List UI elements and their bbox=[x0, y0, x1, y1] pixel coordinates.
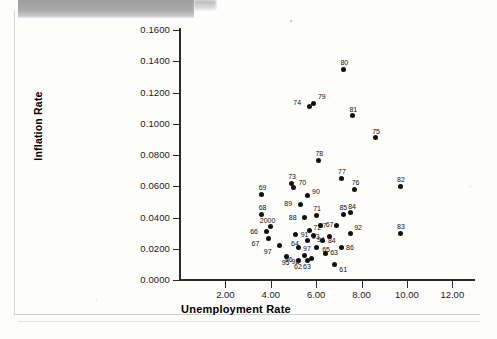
y-tick-mark bbox=[173, 124, 181, 125]
data-point bbox=[291, 185, 296, 190]
data-point bbox=[341, 67, 346, 72]
data-point-label: 79 bbox=[318, 93, 326, 100]
data-point-label: 97 bbox=[303, 245, 311, 252]
data-point bbox=[348, 210, 353, 215]
data-point bbox=[350, 113, 355, 118]
y-tick-mark bbox=[173, 93, 181, 94]
data-point-label: 82 bbox=[397, 176, 405, 183]
data-point bbox=[398, 184, 403, 189]
data-point bbox=[305, 193, 310, 198]
y-tick-label: 0.0000 bbox=[110, 274, 170, 285]
y-tick-mark bbox=[173, 280, 181, 281]
x-tick-label: 8.00 bbox=[339, 289, 385, 300]
x-tick-label: 6.00 bbox=[293, 289, 339, 300]
data-point-label: 2000 bbox=[260, 217, 276, 224]
y-tick-label: 0.1400 bbox=[110, 55, 170, 66]
x-tick-mark bbox=[316, 281, 317, 288]
y-tick-mark bbox=[173, 186, 181, 187]
data-point-label: 68 bbox=[259, 204, 267, 211]
data-point bbox=[341, 212, 346, 217]
data-point bbox=[302, 215, 307, 220]
data-point bbox=[314, 213, 319, 218]
data-point-label: 70 bbox=[298, 179, 306, 186]
y-tick-label: 0.0800 bbox=[110, 149, 170, 160]
data-point-label: 84 bbox=[348, 203, 356, 210]
data-point-label: 73 bbox=[288, 173, 296, 180]
y-tick-label: 0.0600 bbox=[110, 180, 170, 191]
x-tick-mark bbox=[362, 281, 363, 288]
x-tick-label: 4.00 bbox=[248, 289, 294, 300]
y-tick-label: 0.0400 bbox=[110, 212, 170, 223]
data-point-label: 90 bbox=[312, 188, 320, 195]
data-point-label: 85 bbox=[339, 204, 347, 211]
x-tick-label: 12.00 bbox=[429, 289, 475, 300]
y-tick-mark bbox=[173, 155, 181, 156]
data-point-label: 93 bbox=[312, 233, 320, 240]
y-tick-mark bbox=[173, 30, 181, 31]
x-axis-title: Unemployment Rate bbox=[126, 303, 346, 315]
scatter-plot: 0.00000.02000.04000.06000.08000.10000.12… bbox=[0, 0, 497, 339]
data-point-label: 78 bbox=[315, 150, 323, 157]
y-axis-line bbox=[179, 28, 181, 280]
data-point-label: 91 bbox=[301, 231, 309, 238]
data-point-label: 88 bbox=[289, 214, 297, 221]
data-point bbox=[334, 223, 339, 228]
data-point-label: 63 bbox=[330, 249, 338, 256]
scan-speck bbox=[290, 20, 292, 22]
data-point-label: 97 bbox=[264, 248, 272, 255]
data-point bbox=[314, 245, 319, 250]
data-point-label: 72 bbox=[313, 224, 321, 231]
data-point bbox=[259, 192, 264, 197]
scanned-page: 0.00000.02000.04000.06000.08000.10000.12… bbox=[0, 0, 497, 339]
data-point-label: 67 bbox=[326, 221, 334, 228]
data-point-label: 63 bbox=[303, 263, 311, 270]
data-point bbox=[298, 202, 303, 207]
data-point-label: 66 bbox=[250, 228, 258, 235]
y-tick-label: 0.0200 bbox=[110, 243, 170, 254]
data-point-label: 89 bbox=[284, 200, 292, 207]
data-point bbox=[309, 256, 314, 261]
y-tick-mark bbox=[173, 61, 181, 62]
x-tick-mark bbox=[407, 281, 408, 288]
y-tick-label: 0.1200 bbox=[110, 87, 170, 98]
x-tick-label: 2.00 bbox=[202, 289, 248, 300]
data-point bbox=[373, 135, 378, 140]
x-axis-line bbox=[179, 279, 475, 281]
data-point bbox=[323, 251, 328, 256]
y-tick-mark bbox=[173, 218, 181, 219]
x-tick-mark bbox=[271, 281, 272, 288]
data-point-label: 69 bbox=[259, 184, 267, 191]
data-point-label: 61 bbox=[339, 266, 347, 273]
x-tick-mark bbox=[225, 281, 226, 288]
data-point-label: 67 bbox=[252, 240, 260, 247]
data-point-label: 83 bbox=[397, 223, 405, 230]
data-point bbox=[352, 187, 357, 192]
data-point-label: 92 bbox=[354, 224, 362, 231]
data-point-label: 77 bbox=[338, 168, 346, 175]
data-point bbox=[339, 176, 344, 181]
data-point bbox=[348, 231, 353, 236]
y-axis-title: Inflation Rate bbox=[32, 66, 44, 186]
data-point bbox=[293, 232, 298, 237]
data-point-label: 98 bbox=[292, 258, 300, 265]
data-point bbox=[305, 238, 310, 243]
y-tick-label: 0.1000 bbox=[110, 118, 170, 129]
data-point-label: 74 bbox=[293, 99, 301, 106]
data-point-label: 80 bbox=[340, 59, 348, 66]
data-point bbox=[264, 229, 269, 234]
data-point bbox=[316, 158, 321, 163]
data-point-label: 76 bbox=[352, 179, 360, 186]
data-point-label: 71 bbox=[313, 205, 321, 212]
data-point bbox=[268, 224, 273, 229]
y-tick-label: 0.1600 bbox=[110, 24, 170, 35]
y-tick-mark bbox=[173, 249, 181, 250]
data-point-label: 75 bbox=[372, 128, 380, 135]
data-point bbox=[277, 243, 282, 248]
x-tick-mark bbox=[452, 281, 453, 288]
data-point-label: 81 bbox=[349, 106, 357, 113]
data-point bbox=[339, 245, 344, 250]
data-point bbox=[266, 236, 271, 241]
data-point bbox=[296, 245, 301, 250]
data-point bbox=[311, 101, 316, 106]
data-point-label: 86 bbox=[346, 244, 354, 251]
